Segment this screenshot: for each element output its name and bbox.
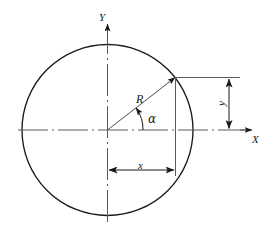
y-dimension-label: y xyxy=(216,101,227,106)
y-axis-label: Y xyxy=(99,12,105,23)
geometry-diagram-svg xyxy=(0,0,279,233)
figure-canvas: Y X R α x y xyxy=(0,0,279,233)
x-dimension-label: x xyxy=(138,160,143,171)
radius-label: R xyxy=(136,93,143,105)
angle-arc xyxy=(136,108,143,130)
x-axis-label: X xyxy=(252,134,259,145)
angle-alpha-label: α xyxy=(148,113,156,125)
